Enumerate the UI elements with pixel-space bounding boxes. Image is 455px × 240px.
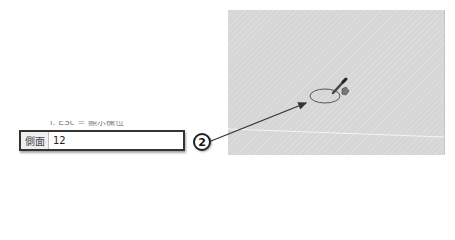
measurements-box[interactable]: 側面 12 bbox=[19, 130, 185, 151]
measurements-value-input[interactable]: 12 bbox=[49, 132, 183, 149]
partial-instruction-text: ⅰ. ESc = 顯示欄位 bbox=[22, 121, 186, 129]
ground-line bbox=[228, 129, 444, 137]
measurements-label: 側面 bbox=[21, 132, 49, 149]
pencil-cursor-icon bbox=[333, 79, 349, 95]
callout-number-badge: 2 bbox=[193, 133, 211, 151]
callout-arrow bbox=[211, 103, 306, 141]
